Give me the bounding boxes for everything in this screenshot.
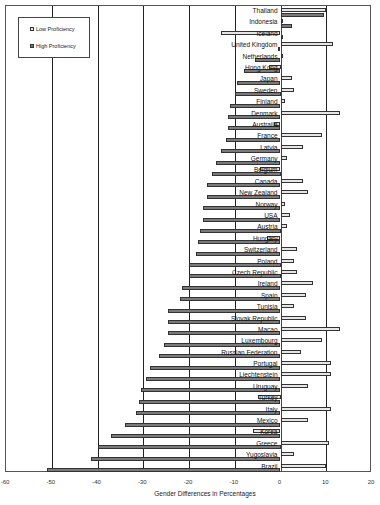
bar-row: Germany [6,155,370,166]
category-label: Sweden [254,87,278,94]
category-label: Mexico [257,417,278,424]
bar-low-proficiency [281,54,283,58]
bar-row: Greece [6,440,370,451]
category-label: Russian Federation [221,349,277,356]
category-label: Japan [260,75,278,82]
bar-low-proficiency [281,202,286,206]
bar-row: Norway [6,201,370,212]
bar-low-proficiency [281,316,306,320]
bar-high-proficiency [281,13,324,17]
category-label: Ireland [258,280,278,287]
bar-row: Italy [6,406,370,417]
bar-low-proficiency [281,452,295,456]
category-label: Australia [252,121,277,128]
bar-low-proficiency [281,8,327,12]
bar-low-proficiency [281,99,286,103]
legend-item-low: Low Proficiency [30,26,75,32]
x-tick-label: -60 [1,479,10,485]
bar-low-proficiency [281,213,290,217]
bar-low-proficiency [281,338,322,342]
bar-row: Russian Federation [6,349,370,360]
bar-low-proficiency [281,304,295,308]
category-label: Brazil [261,463,277,470]
bar-low-proficiency [281,418,308,422]
bar-high-proficiency [278,47,280,51]
category-label: Italy [266,406,278,413]
bar-row: France [6,132,370,143]
category-label: Netherlands [242,53,277,60]
category-label: Slovak Republic [231,315,278,322]
bar-row: Turkey [6,394,370,405]
category-label: Belgium [254,166,277,173]
bar-low-proficiency [281,179,304,183]
x-tick-label: 10 [322,479,329,485]
bar-low-proficiency [281,441,329,445]
bar-low-proficiency [281,384,308,388]
bar-low-proficiency [281,259,295,263]
bar-row: Yugoslavia [6,451,370,462]
category-label: Turkey [258,394,278,401]
bar-low-proficiency [281,350,302,354]
bar-low-proficiency [281,372,331,376]
category-label: Denmark [251,110,277,117]
bar-low-proficiency [281,247,297,251]
bar-low-proficiency [281,464,327,468]
bar-row: Australia [6,121,370,132]
category-label: Hong Kong [245,64,278,71]
bar-low-proficiency [281,361,331,365]
legend-swatch-low [30,27,34,31]
bar-row: Sweden [6,87,370,98]
bar-low-proficiency [281,270,297,274]
bar-row: Brazil [6,463,370,474]
category-label: Germany [251,155,278,162]
category-label: Latvia [260,144,277,151]
bar-low-proficiency [281,293,306,297]
bar-low-proficiency [281,156,288,160]
bar-row: Slovak Republic [6,315,370,326]
bar-high-proficiency [281,24,292,28]
bar-row: Czech Republic [6,269,370,280]
legend-label-high: High Proficiency [36,43,76,49]
category-label: Spain [261,292,278,299]
legend-label-low: Low Proficiency [36,26,75,32]
bar-high-proficiency [47,468,280,472]
bar-high-proficiency [281,35,283,39]
bar-row: Spain [6,292,370,303]
bar-low-proficiency [281,224,288,228]
bar-row: Portugal [6,360,370,371]
bar-high-proficiency [111,434,280,438]
category-label: United Kingdom [231,41,277,48]
category-label: Switzerland [244,246,278,253]
category-label: Uruguay [253,383,278,390]
category-label: Luxembourg [241,337,277,344]
category-label: Norway [255,201,277,208]
category-label: Portugal [253,360,277,367]
bar-low-proficiency [281,281,313,285]
category-label: Finland [256,98,277,105]
x-tick-label: -10 [229,479,238,485]
category-label: Macao [258,326,278,333]
bar-row: Mexico [6,417,370,428]
bar-row: Hungary [6,235,370,246]
bar-row: Uruguay [6,383,370,394]
bar-row: Canada [6,178,370,189]
x-tick-label: 20 [368,479,375,485]
x-tick-label: -40 [92,479,101,485]
bar-low-proficiency [281,327,340,331]
category-label: Korea [260,428,277,435]
legend-swatch-high [30,44,34,48]
bar-row: Ireland [6,280,370,291]
bar-row: Belgium [6,166,370,177]
category-label: Iceland [257,30,278,37]
bar-low-proficiency [281,145,304,149]
bar-low-proficiency [281,407,331,411]
category-label: Yugoslavia [246,451,277,458]
bar-row: Korea [6,428,370,439]
x-tick-label: -30 [138,479,147,485]
bar-high-proficiency [136,411,280,415]
category-label: Canada [255,178,278,185]
x-tick-label: -20 [184,479,193,485]
category-label: Greece [256,440,277,447]
bar-row: New Zealand [6,189,370,200]
category-label: Indonesia [249,18,277,25]
